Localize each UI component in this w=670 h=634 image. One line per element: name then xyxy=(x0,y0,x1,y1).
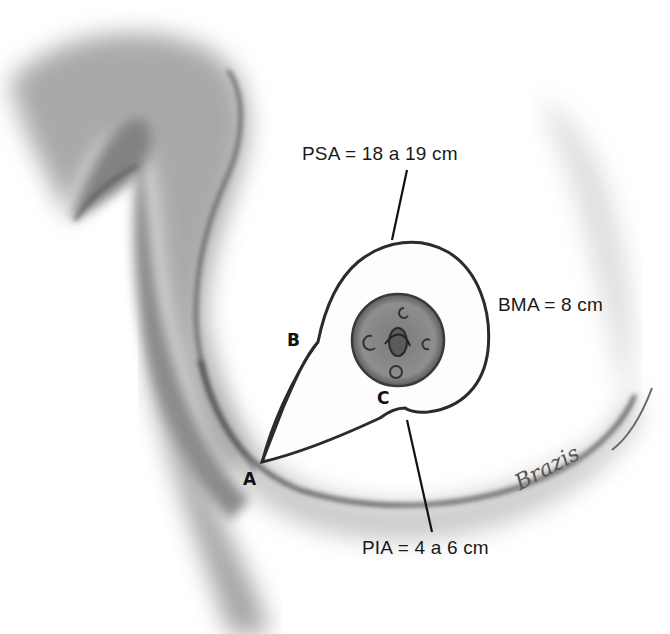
point-b-label: B xyxy=(287,330,300,350)
bma-label: BMA = 8 cm xyxy=(498,294,603,316)
psa-label: PSA = 18 a 19 cm xyxy=(302,143,458,165)
point-c-label: C xyxy=(377,388,389,408)
psa-leader-line xyxy=(392,170,407,240)
nipple xyxy=(389,328,407,356)
pia-label: PIA = 4 a 6 cm xyxy=(362,537,489,559)
diagram-canvas: PSA = 18 a 19 cm BMA = 8 cm PIA = 4 a 6 … xyxy=(0,0,670,634)
illustration xyxy=(0,0,670,634)
arm-shading xyxy=(10,33,250,520)
point-a-label: A xyxy=(243,469,256,489)
